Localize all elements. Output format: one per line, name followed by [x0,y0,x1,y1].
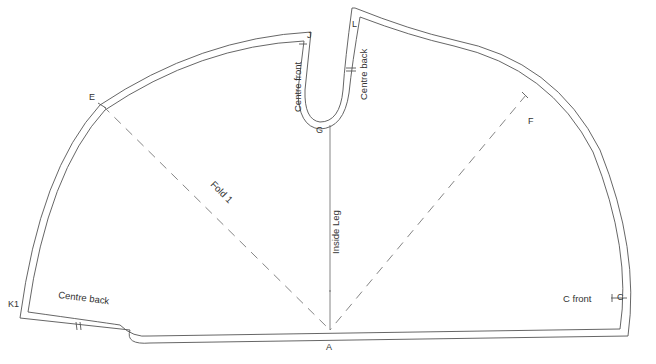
point-c-label: C [617,292,624,302]
fold-line-f [330,95,526,330]
pattern-svg: J L G E F K1 A C Centre front Centre bac… [0,0,656,364]
notch-centre-back-hem [76,322,77,330]
fold-line-e [103,106,330,330]
notch-f [522,92,528,98]
point-l-label: L [352,19,357,29]
point-k1-label: K1 [8,299,19,309]
point-g-label: G [316,125,323,135]
inner-outline [28,17,623,336]
point-a-label: A [326,342,332,352]
point-j-label: J [307,30,312,40]
point-e-label: E [89,92,95,102]
centre-back-notch-label: Centre back [358,49,369,100]
inside-leg-label: Inside Leg [330,210,341,254]
point-f-label: F [528,116,534,126]
fold-label: Fold 1 [209,179,235,205]
c-front-label: C front [563,293,592,304]
centre-front-notch-label: Centre front [292,61,303,112]
pattern-diagram: J L G E F K1 A C Centre front Centre bac… [0,0,656,364]
outer-outline [20,8,631,343]
centre-back-hem-label: Centre back [58,289,110,306]
